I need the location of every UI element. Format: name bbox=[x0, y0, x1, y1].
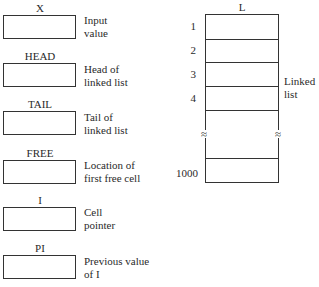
row-label-4: 4 bbox=[166, 92, 196, 104]
linked-list-label: Linked list bbox=[284, 75, 315, 101]
var-head-box bbox=[3, 63, 76, 87]
var-pi-desc: Previous value of I bbox=[84, 255, 149, 281]
var-head-label: HEAD bbox=[3, 50, 77, 62]
var-free-box bbox=[3, 160, 76, 184]
var-i-box bbox=[3, 207, 76, 231]
break-mark-icon: ≈ bbox=[201, 130, 207, 138]
array-divider bbox=[205, 110, 279, 111]
var-free-desc: Location of first free cell bbox=[84, 159, 140, 185]
array-title: L bbox=[205, 1, 279, 13]
array-divider bbox=[205, 39, 279, 40]
array-l: ≈ ≈ bbox=[205, 14, 279, 183]
var-tail-box bbox=[3, 111, 76, 135]
array-divider bbox=[205, 86, 279, 87]
var-x-box bbox=[3, 15, 76, 39]
array-divider bbox=[205, 158, 279, 159]
var-free-label: FREE bbox=[3, 147, 77, 159]
row-label-1: 1 bbox=[166, 20, 196, 32]
break-mark-icon: ≈ bbox=[275, 130, 281, 138]
array-divider bbox=[205, 62, 279, 63]
row-label-1000: 1000 bbox=[168, 167, 198, 179]
var-pi-box bbox=[3, 255, 76, 279]
array-bottom-line bbox=[205, 182, 279, 183]
var-i-desc: Cell pointer bbox=[84, 206, 115, 232]
var-x-desc: Input value bbox=[84, 14, 108, 40]
var-pi-label: PI bbox=[3, 242, 77, 254]
array-top-line bbox=[205, 14, 279, 15]
var-head-desc: Head of linked list bbox=[84, 63, 128, 89]
row-label-2: 2 bbox=[166, 44, 196, 56]
var-tail-desc: Tail of linked list bbox=[84, 111, 128, 137]
var-tail-label: TAIL bbox=[3, 98, 77, 110]
var-i-label: I bbox=[3, 194, 77, 206]
var-x-label: X bbox=[3, 2, 77, 14]
row-label-3: 3 bbox=[166, 68, 196, 80]
